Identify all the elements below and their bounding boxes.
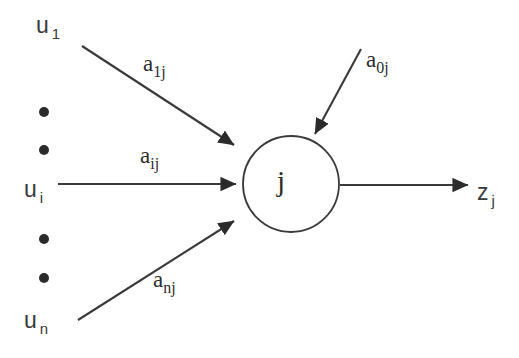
ellipsis-dot	[39, 273, 49, 283]
label-weight-aij-subscript: ij	[150, 155, 159, 172]
label-node-j: j	[277, 167, 285, 196]
label-output-zj-base: z	[477, 179, 489, 205]
label-output-zj: zj	[477, 181, 492, 204]
label-weight-a0j: a0j	[366, 48, 389, 71]
arrow-bias-input	[315, 49, 361, 134]
ellipsis-dot	[39, 145, 49, 155]
label-weight-aij-base: a	[140, 143, 150, 168]
neuron-diagram-canvas: u1 ui un a1j aij anj a0j j zj	[0, 0, 519, 358]
label-weight-anj: anj	[153, 268, 176, 291]
label-input-u1-base: u	[36, 12, 49, 38]
label-weight-a1j-subscript: 1j	[153, 63, 165, 80]
label-input-ui: ui	[24, 178, 40, 201]
label-weight-a1j: a1j	[143, 52, 166, 75]
diagram-vector-layer	[0, 0, 519, 358]
label-input-u1: u1	[36, 14, 57, 37]
label-weight-anj-base: a	[153, 267, 163, 292]
label-input-un: un	[24, 309, 45, 332]
label-input-ui-base: u	[24, 176, 37, 202]
neuron-node-circle	[243, 136, 339, 232]
label-weight-a1j-base: a	[143, 51, 153, 76]
ellipsis-dot	[39, 107, 49, 117]
label-input-u1-subscript: 1	[52, 25, 60, 42]
label-weight-aij: aij	[140, 144, 159, 167]
label-input-un-subscript: n	[40, 320, 48, 337]
label-weight-anj-subscript: nj	[163, 279, 175, 296]
label-weight-a0j-base: a	[366, 47, 376, 72]
ellipsis-dot	[39, 234, 49, 244]
label-weight-a0j-subscript: 0j	[376, 59, 388, 76]
label-input-ui-subscript: i	[40, 189, 43, 206]
label-input-un-base: u	[24, 307, 37, 333]
label-output-zj-subscript: j	[492, 192, 495, 209]
